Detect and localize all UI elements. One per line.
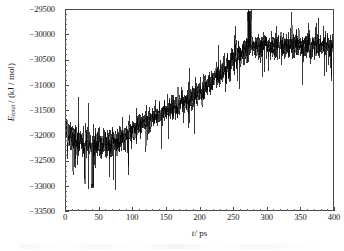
- x-minor-tick-mark: [213, 209, 214, 211]
- x-minor-tick-mark: [206, 209, 207, 211]
- y-minor-tick-mark: [65, 54, 67, 55]
- scan-artifact: [20, 244, 320, 249]
- y-minor-tick-mark: [65, 44, 67, 45]
- x-minor-tick-mark: [159, 209, 160, 211]
- y-tick-mark: [65, 34, 69, 35]
- x-minor-tick-mark: [105, 209, 106, 211]
- x-minor-tick-mark: [226, 209, 227, 211]
- x-minor-tick-mark: [139, 209, 140, 211]
- y-axis-units: / (kJ / mol): [6, 63, 16, 103]
- y-tick-mark: [65, 186, 69, 187]
- x-tick-mark: [300, 207, 301, 211]
- y-minor-tick-mark: [65, 125, 67, 126]
- y-minor-tick-mark: [65, 166, 67, 167]
- x-tick-mark: [132, 207, 133, 211]
- y-minor-tick-mark: [65, 14, 67, 15]
- x-minor-tick-mark: [247, 209, 248, 211]
- x-minor-tick-mark: [260, 209, 261, 211]
- y-minor-tick-mark: [65, 95, 67, 96]
- y-tick-label: −31500: [30, 106, 55, 115]
- y-minor-tick-mark: [65, 176, 67, 177]
- x-axis-title: t/ ps: [65, 228, 334, 238]
- y-tick-label: −30000: [30, 30, 55, 39]
- y-tick-label: −33000: [30, 182, 55, 191]
- x-minor-tick-mark: [179, 209, 180, 211]
- x-minor-tick-mark: [173, 209, 174, 211]
- x-minor-tick-mark: [307, 209, 308, 211]
- x-minor-tick-mark: [78, 209, 79, 211]
- x-minor-tick-mark: [294, 209, 295, 211]
- y-minor-tick-mark: [65, 150, 67, 151]
- y-minor-tick-mark: [65, 39, 67, 40]
- y-minor-tick-mark: [65, 49, 67, 50]
- y-minor-tick-mark: [65, 181, 67, 182]
- x-minor-tick-mark: [220, 209, 221, 211]
- y-minor-tick-mark: [65, 90, 67, 91]
- x-minor-tick-mark: [314, 209, 315, 211]
- y-axis-symbol: E: [6, 116, 16, 122]
- y-minor-tick-mark: [65, 75, 67, 76]
- x-minor-tick-mark: [240, 209, 241, 211]
- x-tick-mark: [200, 207, 201, 211]
- y-minor-tick-mark: [65, 115, 67, 116]
- y-tick-mark: [65, 161, 69, 162]
- energy-trace-svg: [66, 10, 333, 210]
- x-minor-tick-mark: [119, 209, 120, 211]
- y-minor-tick-mark: [65, 24, 67, 25]
- y-tick-label: −31000: [30, 81, 55, 90]
- y-minor-tick-mark: [65, 29, 67, 30]
- x-axis-units: / ps: [194, 228, 207, 238]
- y-axis-subscript: total: [10, 105, 16, 116]
- x-tick-mark: [233, 207, 234, 211]
- y-tick-mark: [65, 135, 69, 136]
- x-minor-tick-mark: [72, 209, 73, 211]
- y-minor-tick-mark: [65, 70, 67, 71]
- y-minor-tick-mark: [65, 140, 67, 141]
- x-minor-tick-mark: [321, 209, 322, 211]
- x-tick-label: 400: [314, 213, 344, 222]
- y-minor-tick-mark: [65, 105, 67, 106]
- y-minor-tick-mark: [65, 130, 67, 131]
- y-axis-title: Etotal / (kJ / mol): [6, 32, 18, 152]
- y-minor-tick-mark: [65, 120, 67, 121]
- energy-trace-line: [66, 10, 333, 189]
- x-minor-tick-mark: [85, 209, 86, 211]
- y-tick-mark: [65, 85, 69, 86]
- y-tick-mark: [65, 110, 69, 111]
- y-tick-label: −32500: [30, 156, 55, 165]
- figure-total-energy-vs-time: −33500−33000−32500−32000−31500−31000−305…: [0, 0, 344, 251]
- x-minor-tick-mark: [92, 209, 93, 211]
- y-tick-mark: [65, 60, 69, 61]
- y-minor-tick-mark: [65, 19, 67, 20]
- y-tick-label: −32000: [30, 131, 55, 140]
- x-minor-tick-mark: [253, 209, 254, 211]
- y-minor-tick-mark: [65, 171, 67, 172]
- y-tick-label: −30500: [30, 55, 55, 64]
- y-minor-tick-mark: [65, 65, 67, 66]
- y-minor-tick-mark: [65, 191, 67, 192]
- y-minor-tick-mark: [65, 145, 67, 146]
- x-tick-mark: [65, 207, 66, 211]
- plot-area: [65, 9, 334, 211]
- y-minor-tick-mark: [65, 155, 67, 156]
- x-minor-tick-mark: [327, 209, 328, 211]
- x-minor-tick-mark: [273, 209, 274, 211]
- x-minor-tick-mark: [146, 209, 147, 211]
- y-minor-tick-mark: [65, 201, 67, 202]
- x-minor-tick-mark: [193, 209, 194, 211]
- y-minor-tick-mark: [65, 80, 67, 81]
- x-minor-tick-mark: [287, 209, 288, 211]
- x-tick-mark: [334, 207, 335, 211]
- y-tick-label: −29500: [30, 5, 55, 14]
- x-minor-tick-mark: [152, 209, 153, 211]
- x-minor-tick-mark: [112, 209, 113, 211]
- x-minor-tick-mark: [126, 209, 127, 211]
- x-minor-tick-mark: [280, 209, 281, 211]
- x-tick-mark: [166, 207, 167, 211]
- x-minor-tick-mark: [186, 209, 187, 211]
- y-minor-tick-mark: [65, 196, 67, 197]
- x-tick-mark: [99, 207, 100, 211]
- y-tick-mark: [65, 9, 69, 10]
- y-minor-tick-mark: [65, 100, 67, 101]
- x-tick-mark: [267, 207, 268, 211]
